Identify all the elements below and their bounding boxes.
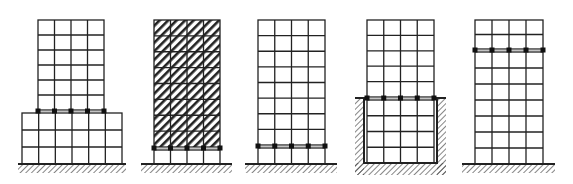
isolation-bearing-icon [69, 109, 74, 114]
diagram-canvas [0, 0, 573, 184]
isolation-bearing-icon [201, 146, 206, 151]
isolation-bearing-icon [85, 109, 90, 114]
isolation-bearing-icon [415, 96, 420, 101]
isolation-bearing-icon [102, 109, 107, 114]
isolation-diagram [0, 0, 573, 184]
isolation-bearing-icon [289, 144, 294, 149]
isolation-bearing-icon [218, 146, 223, 151]
isolation-bearing-icon [52, 109, 57, 114]
isolation-bearing-icon [185, 146, 190, 151]
isolation-bearing-icon [507, 48, 512, 53]
building-b2 [141, 20, 232, 173]
isolation-bearing-icon [541, 48, 546, 53]
building-b1 [18, 20, 126, 173]
isolation-bearing-icon [490, 48, 495, 53]
isolation-bearing-icon [398, 96, 403, 101]
ground-hatch [245, 164, 337, 173]
isolation-bearing-icon [381, 96, 386, 101]
isolation-bearing-icon [473, 48, 478, 53]
building-b4 [355, 20, 446, 175]
ground-hatch [141, 164, 232, 173]
isolation-bearing-icon [323, 144, 328, 149]
pit-floor-hatch [355, 163, 446, 175]
isolation-bearing-icon [168, 146, 173, 151]
isolation-bearing-icon [365, 96, 370, 101]
isolation-bearing-icon [306, 144, 311, 149]
ground-hatch [18, 164, 126, 173]
building-b5 [462, 20, 555, 173]
isolation-bearing-icon [256, 144, 261, 149]
isolation-bearing-icon [524, 48, 529, 53]
building-b3 [245, 20, 337, 173]
isolation-bearing-icon [432, 96, 437, 101]
isolation-bearing-icon [152, 146, 157, 151]
ground-hatch [462, 164, 555, 173]
isolation-bearing-icon [36, 109, 41, 114]
isolation-bearing-icon [272, 144, 277, 149]
